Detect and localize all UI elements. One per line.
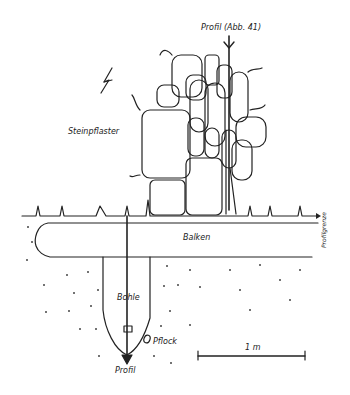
north-arrow-icon bbox=[101, 68, 112, 93]
scale-label: 1 m bbox=[245, 343, 261, 352]
plank-label: Bohle bbox=[117, 293, 140, 302]
peg-label: Pflock bbox=[153, 337, 177, 346]
profile-bottom-arrow bbox=[122, 216, 132, 364]
profile-bottom-label: Profil bbox=[115, 366, 136, 375]
profile-top-label: Profil (Abb. 41) bbox=[201, 23, 261, 32]
stone-pavement bbox=[130, 50, 266, 215]
stone-pavement-label: Steinpflaster bbox=[68, 127, 120, 136]
profile-boundary-label: Profilgrenze bbox=[320, 212, 328, 248]
beam-label: Balken bbox=[183, 233, 210, 242]
find-marker bbox=[124, 326, 132, 332]
beam bbox=[35, 223, 318, 257]
ground-line bbox=[22, 200, 318, 216]
plan-drawing: Profil (Abb. 41) Steinpflaster Profilgre… bbox=[0, 0, 350, 395]
scale-bar bbox=[198, 351, 305, 360]
